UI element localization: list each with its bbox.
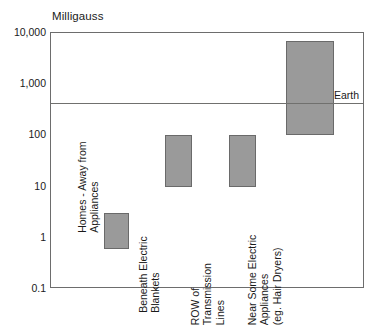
y-axis-tick-label: 10 — [0, 180, 46, 192]
bar — [229, 135, 256, 186]
category-label: Near Some Electric Appliances (eg. Hair … — [246, 235, 283, 325]
y-axis-tick-label: 10,000 — [0, 26, 46, 38]
y-axis-tick-labels: 10,0001,0001001010.1 — [0, 0, 46, 305]
y-axis-tick-label: 100 — [0, 128, 46, 140]
category-label: Homes - Away from Appliances — [76, 141, 101, 232]
bar — [286, 41, 334, 135]
reference-line-earth — [51, 103, 363, 104]
y-axis-tick-label: 0.1 — [0, 282, 46, 294]
chart-axis-title: Milligauss — [52, 10, 104, 22]
y-axis-tick-label: 1 — [0, 231, 46, 243]
category-label: ROW of Transmission Lines — [188, 263, 225, 325]
category-label: Beneath Electric Blankets — [137, 236, 162, 312]
bar — [165, 135, 192, 186]
reference-line-label: Earth — [334, 89, 359, 101]
y-axis-tick-label: 1,000 — [0, 77, 46, 89]
bar — [104, 213, 129, 249]
